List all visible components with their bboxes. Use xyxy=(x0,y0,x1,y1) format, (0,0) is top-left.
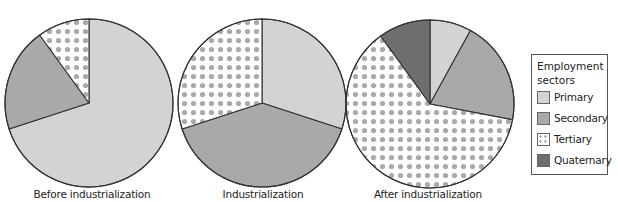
legend-item-primary: Primary xyxy=(537,90,593,104)
legend-label: Secondary xyxy=(554,112,608,124)
legend-label: Tertiary xyxy=(554,133,592,145)
pie-after-industrialization xyxy=(346,20,514,188)
secondary-swatch-icon xyxy=(537,112,550,125)
pie-label-industrialization: Industrialization xyxy=(173,188,353,200)
legend-title: Employment sectors xyxy=(537,59,604,87)
primary-swatch-icon xyxy=(537,91,550,104)
pie-industrialization xyxy=(178,19,346,187)
legend-title-line1: Employment xyxy=(537,59,604,73)
pie-before-industrialization xyxy=(5,19,173,187)
legend: Employment sectors Primary Secondary Ter… xyxy=(531,54,608,175)
pie-charts xyxy=(0,0,618,202)
legend-title-line2: sectors xyxy=(537,73,604,87)
quaternary-swatch-icon xyxy=(537,154,550,167)
tertiary-dotted-swatch-icon xyxy=(537,133,550,146)
pie-label-after: After industrialization xyxy=(338,188,518,200)
legend-item-tertiary: Tertiary xyxy=(537,132,592,146)
legend-label: Quaternary xyxy=(554,154,612,166)
pie-label-before: Before industrialization xyxy=(2,188,182,200)
legend-label: Primary xyxy=(554,91,593,103)
legend-item-quaternary: Quaternary xyxy=(537,153,612,167)
legend-item-secondary: Secondary xyxy=(537,111,608,125)
